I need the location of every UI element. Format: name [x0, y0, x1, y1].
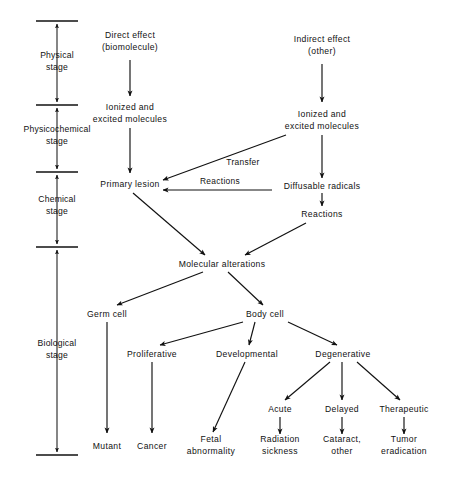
node-developmental: Developmental — [216, 349, 278, 359]
stage-label-chemical-line2: stage — [46, 206, 68, 216]
stage-label-physical-line1: Physical — [40, 50, 74, 60]
edge-body-to-proliferative — [160, 322, 243, 345]
stage-label-chemical-line1: Chemical — [38, 194, 75, 204]
edge-reactions-to-molecular — [245, 223, 306, 255]
node-direct-effect-line1: Direct effect — [105, 30, 156, 40]
node-ionized-left-line1: Ionized and — [106, 102, 154, 112]
stage-label-physical-line2: stage — [46, 62, 68, 72]
node-mutant: Mutant — [93, 441, 122, 451]
node-acute: Acute — [268, 404, 292, 414]
edge-developmental-to-fetal — [213, 362, 245, 432]
node-delayed: Delayed — [325, 404, 359, 414]
node-proliferative: Proliferative — [127, 349, 177, 359]
node-diffusable-radicals: Diffusable radicals — [284, 181, 361, 191]
node-germ-cell: Germ cell — [87, 309, 127, 319]
node-ionized-right-line2: excited molecules — [285, 121, 359, 131]
node-ionized-right-line1: Ionized and — [298, 109, 346, 119]
edge-degenerative-to-acute — [285, 362, 330, 400]
node-cataract-other-line2: other — [331, 446, 352, 456]
node-fetal-abnormality-line1: Fetal — [201, 434, 222, 444]
node-body-cell: Body cell — [246, 309, 284, 319]
edge-label-transfer: Transfer — [226, 157, 259, 167]
stage-label-biological-line1: Biological — [38, 338, 77, 348]
node-fetal-abnormality-line2: abnormality — [187, 446, 236, 456]
node-labels: Direct effect (biomolecule) Indirect eff… — [87, 30, 429, 456]
node-cataract-other-line1: Cataract, — [323, 434, 361, 444]
edge-molecular-to-body-cell — [228, 272, 263, 305]
node-indirect-effect-line1: Indirect effect — [294, 34, 351, 44]
edge-label-reactions: Reactions — [200, 176, 240, 186]
node-radiation-sickness-line2: sickness — [262, 446, 298, 456]
node-degenerative: Degenerative — [315, 349, 370, 359]
edge-molecular-to-germ-cell — [117, 272, 203, 305]
diagram-canvas: Physical stage Physicochemical stage Che… — [0, 0, 450, 480]
edge-transfer — [163, 135, 286, 180]
node-tumor-eradication-line2: eradication — [381, 446, 427, 456]
flowchart-diagram: Physical stage Physicochemical stage Che… — [0, 0, 450, 480]
node-tumor-eradication-line1: Tumor — [391, 434, 417, 444]
edge-label-group: Transfer Reactions — [200, 157, 260, 186]
edge-body-to-developmental — [249, 322, 255, 345]
node-molecular-alterations: Molecular alterations — [179, 259, 266, 269]
stage-label-biological-line2: stage — [46, 350, 68, 360]
node-direct-effect-line2: (biomolecule) — [102, 42, 158, 52]
stage-label-physicochemical-line2: stage — [46, 136, 68, 146]
node-primary-lesion: Primary lesion — [100, 179, 159, 189]
edge-degenerative-to-therapeutic — [357, 362, 400, 400]
node-indirect-effect-line2: (other) — [308, 46, 336, 56]
edge-primary-to-molecular — [133, 193, 205, 255]
node-reactions: Reactions — [301, 209, 342, 219]
stage-axis — [36, 21, 78, 455]
node-cancer: Cancer — [137, 441, 167, 451]
edge-body-to-degenerative — [288, 322, 337, 345]
node-radiation-sickness-line1: Radiation — [260, 434, 299, 444]
node-therapeutic: Therapeutic — [379, 404, 429, 414]
node-ionized-left-line2: excited molecules — [93, 114, 167, 124]
stage-label-physicochemical-line1: Physicochemical — [24, 124, 91, 134]
